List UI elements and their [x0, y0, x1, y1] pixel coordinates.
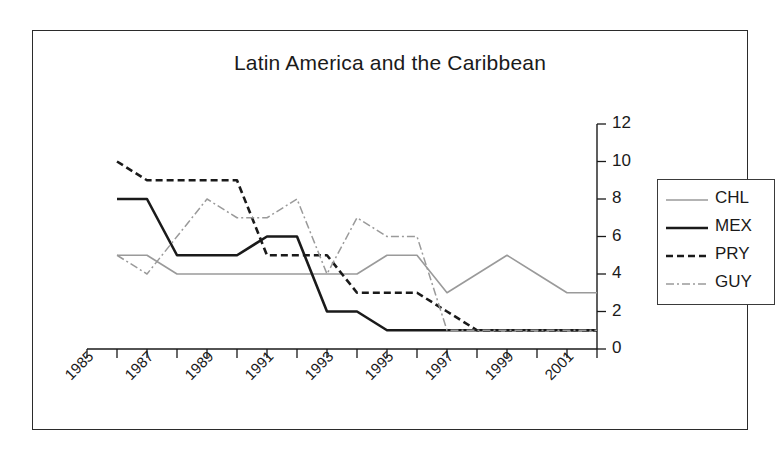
y-tick-label: 8	[612, 188, 621, 208]
legend-item-pry[interactable]: PRY	[666, 243, 750, 265]
y-axis	[597, 124, 606, 349]
x-axis	[87, 349, 597, 358]
legend-swatch-icon	[666, 220, 708, 232]
series-line-chl	[117, 255, 597, 293]
y-tick-label: 12	[612, 113, 631, 133]
legend-label: PRY	[715, 244, 750, 264]
y-tick-label: 10	[612, 151, 631, 171]
legend-swatch-icon	[666, 192, 708, 204]
legend-label: GUY	[715, 272, 752, 292]
legend-item-mex[interactable]: MEX	[666, 215, 752, 237]
y-tick-label: 6	[612, 226, 621, 246]
legend-swatch-icon	[666, 248, 708, 260]
legend-swatch-icon	[666, 276, 708, 288]
chart-figure: Latin America and the Caribbean 02468101…	[0, 0, 782, 463]
y-tick-label: 0	[612, 338, 621, 358]
legend-item-guy[interactable]: GUY	[666, 271, 752, 293]
legend-label: MEX	[715, 216, 752, 236]
legend-item-chl[interactable]: CHL	[666, 187, 749, 209]
y-tick-label: 4	[612, 263, 621, 283]
chart-legend: CHLMEXPRYGUY	[657, 179, 775, 305]
legend-label: CHL	[715, 188, 749, 208]
y-tick-label: 2	[612, 301, 621, 321]
chart-frame: Latin America and the Caribbean 02468101…	[32, 30, 748, 430]
series-line-pry	[117, 162, 597, 331]
